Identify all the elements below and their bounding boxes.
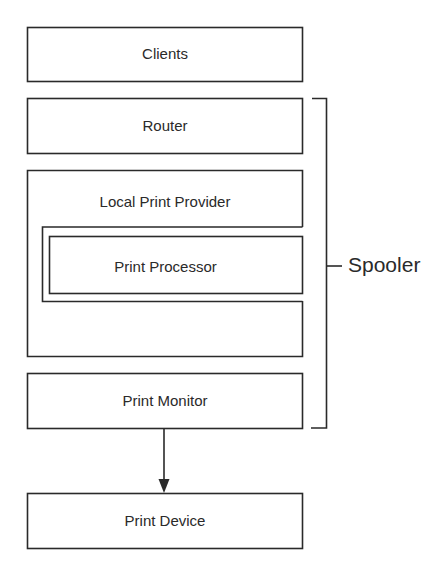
arrow-head-icon bbox=[159, 479, 170, 493]
local-print-provider-label: Local Print Provider bbox=[27, 193, 303, 210]
spooler-bracket bbox=[311, 99, 327, 429]
print-device-label: Print Device bbox=[27, 512, 303, 529]
clients-label: Clients bbox=[27, 45, 303, 62]
spooler-label: Spooler bbox=[348, 253, 420, 277]
print-processor-label: Print Processor bbox=[49, 258, 282, 275]
router-label: Router bbox=[27, 117, 303, 134]
diagram-canvas bbox=[0, 0, 439, 576]
print-monitor-label: Print Monitor bbox=[27, 392, 303, 409]
